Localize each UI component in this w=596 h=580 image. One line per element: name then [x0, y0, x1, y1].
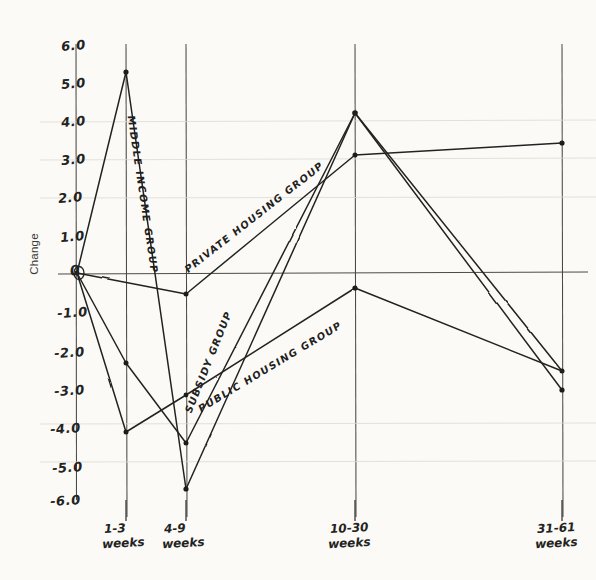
x-tick-label-4: 31-61 weeks [534, 520, 580, 552]
chart-figure: Change [0, 0, 596, 580]
y-tick-label-minus6: -6.0 [49, 492, 81, 509]
series-line-public-housing-group [77, 273, 562, 432]
zero-baseline [58, 272, 588, 274]
y-tick-label-3: 3.0 [60, 151, 86, 168]
y-tick-label-6: 6.0 [60, 37, 86, 54]
y-tick-label-1: 1.0 [59, 228, 85, 245]
y-tick-label-0: 0 [69, 262, 81, 279]
y-tick-label-minus5: -5.0 [51, 459, 83, 476]
y-tick-label-4: 4.0 [60, 113, 86, 130]
y-tick-label-minus1: -1.0 [56, 304, 88, 321]
series-markers-middle-income-group [75, 69, 565, 491]
x-tick-label-3: 10-30 weeks [327, 520, 373, 552]
y-tick-label-5: 5.0 [60, 75, 86, 92]
x-tick-label-1: 1-3 weeks [101, 520, 147, 552]
chart-plot-area [0, 0, 596, 580]
gridline-vertical-2 [186, 44, 187, 517]
x-tick-label-2: 4-9 weeks [161, 520, 207, 552]
y-tick-label-minus3: -3.0 [53, 382, 85, 399]
gridline-vertical-4 [562, 44, 563, 517]
y-tick-label-2: 2.0 [57, 189, 83, 206]
x-tick-marks [126, 500, 562, 521]
y-tick-label-minus4: -4.0 [49, 420, 81, 437]
y-tick-label-minus2: -2.0 [53, 344, 85, 361]
